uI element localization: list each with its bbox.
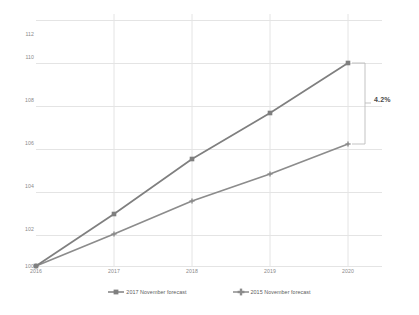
legend-item-2015-november-forecast[interactable]: 2015 November forecast — [233, 288, 311, 296]
legend-label: 2017 November forecast — [126, 288, 186, 296]
gap-annotation-label: 4.2% — [374, 96, 391, 103]
y-tick-label: 102 — [8, 226, 34, 232]
y-tick-label: 106 — [8, 140, 34, 146]
plot-area: 4.2% — [36, 14, 382, 272]
gap-bracket — [352, 63, 371, 144]
x-tick-label: 2020 — [328, 268, 368, 275]
y-tick-label: 108 — [8, 97, 34, 103]
line-square-marker-icon — [108, 288, 124, 296]
y-axis-tick-labels: 112 110 108 106 104 102 100 — [4, 14, 34, 272]
x-tick-label: 2018 — [172, 268, 212, 275]
category-droplines — [114, 14, 348, 266]
x-tick-label: 2016 — [16, 268, 56, 275]
series-svg — [36, 14, 382, 272]
line-plus-marker-icon — [233, 288, 249, 296]
x-axis-tick-labels: 2016 2017 2018 2019 2020 — [36, 268, 382, 278]
y-tick-label: 110 — [8, 54, 34, 60]
y-tick-label: 112 — [8, 31, 34, 37]
legend-label: 2015 November forecast — [251, 288, 311, 296]
legend-item-2017-november-forecast[interactable]: 2017 November forecast — [108, 288, 186, 296]
x-tick-label: 2017 — [94, 268, 134, 275]
line-chart: 112 110 108 106 104 102 100 — [0, 0, 419, 315]
y-tick-label: 104 — [8, 183, 34, 189]
chart-legend: 2017 November forecast 2015 November for… — [0, 288, 419, 296]
x-tick-label: 2019 — [250, 268, 290, 275]
